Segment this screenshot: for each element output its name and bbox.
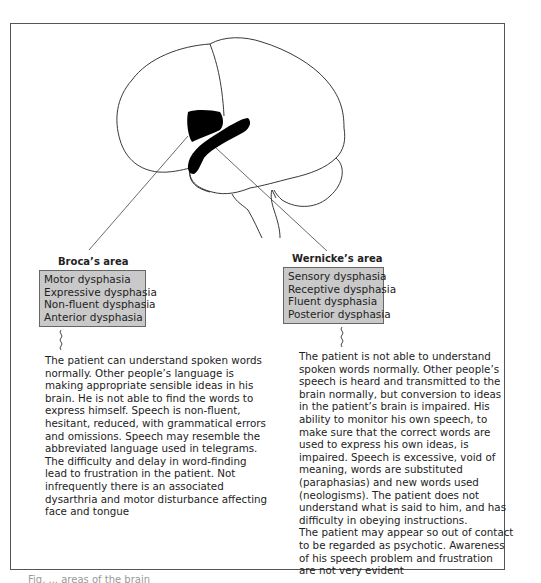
wernicke-area-title: Wernicke’s area bbox=[292, 253, 382, 264]
brainstem-left bbox=[232, 194, 262, 238]
cerebrum-outline bbox=[117, 38, 345, 194]
text-line: brain normally, but conversion to ideas bbox=[299, 388, 513, 401]
text-line: impaired. Speech is excessive, void of bbox=[299, 451, 513, 464]
text-line: The patient may appear so out of contact bbox=[299, 526, 513, 539]
text-line: of his speech problem and frustration bbox=[299, 552, 513, 565]
text-line: spoken words normally. Other people’s bbox=[299, 363, 513, 376]
text-line: difficulty in obeying instructions. bbox=[299, 514, 513, 527]
figure-caption-partial: Fig. ... areas of the brain bbox=[28, 574, 150, 583]
broca-synonyms-box: Motor dysphasia Expressive dysphasia Non… bbox=[39, 270, 146, 327]
wernicke-wavy-connector bbox=[341, 327, 343, 347]
broca-synonym: Non-fluent dysphasia bbox=[44, 298, 141, 311]
text-line: express himself. Speech is non-fluent, bbox=[45, 404, 267, 417]
brainstem-notch bbox=[272, 190, 276, 198]
text-line: The patient is not able to understand bbox=[299, 350, 513, 363]
text-line: understand what is said to him, and has bbox=[299, 501, 513, 514]
text-line: infrequently there is an associated bbox=[45, 480, 267, 493]
text-line: The patient can understand spoken words bbox=[45, 354, 267, 367]
broca-wavy-connector bbox=[60, 330, 62, 350]
text-line: ability to monitor his own speech, to bbox=[299, 413, 513, 426]
wernicke-synonyms-box: Sensory dysphasia Receptive dysphasia Fl… bbox=[283, 267, 384, 324]
central-sulcus bbox=[210, 44, 224, 116]
wernicke-synonym: Receptive dysphasia bbox=[288, 283, 379, 296]
wernicke-leader-line bbox=[216, 148, 327, 251]
text-line: are not very evident bbox=[299, 564, 513, 577]
wernicke-description: The patient is not able to understand sp… bbox=[299, 350, 513, 577]
text-line: normally. Other people’s language is bbox=[45, 367, 267, 380]
text-line: (paraphasias) and new words used bbox=[299, 476, 513, 489]
wernicke-synonym: Sensory dysphasia bbox=[288, 270, 379, 283]
text-line: face and tongue bbox=[45, 505, 267, 518]
text-line: meaning, words are substituted bbox=[299, 463, 513, 476]
cerebellum-outline bbox=[274, 158, 342, 206]
broca-synonym: Anterior dysphasia bbox=[44, 311, 141, 324]
broca-synonym: Expressive dysphasia bbox=[44, 286, 141, 299]
text-line: brain. He is not able to find the words … bbox=[45, 392, 267, 405]
text-line: making appropriate sensible ideas in his bbox=[45, 379, 267, 392]
text-line: speech is heard and transmitted to the bbox=[299, 375, 513, 388]
broca-leader-line bbox=[89, 136, 188, 250]
text-line: hesitant, reduced, with grammatical erro… bbox=[45, 417, 267, 430]
text-line: used to express his own ideas, is bbox=[299, 438, 513, 451]
broca-area-title: Broca’s area bbox=[58, 256, 129, 267]
text-line: in the patient’s brain is impaired. His bbox=[299, 400, 513, 413]
text-line: make sure that the correct words are bbox=[299, 426, 513, 439]
text-line: lead to frustration in the patient. Not bbox=[45, 467, 267, 480]
text-line: to be regarded as psychotic. Awareness bbox=[299, 539, 513, 552]
wernicke-synonym: Fluent dysphasia bbox=[288, 295, 379, 308]
text-line: (neologisms). The patient does not bbox=[299, 489, 513, 502]
text-line: and omissions. Speech may resemble the bbox=[45, 430, 267, 443]
broca-synonym: Motor dysphasia bbox=[44, 273, 141, 286]
wernicke-synonym: Posterior dysphasia bbox=[288, 308, 379, 321]
text-line: The difficulty and delay in word-finding bbox=[45, 455, 267, 468]
text-line: dysarthria and motor disturbance affecti… bbox=[45, 493, 267, 506]
broca-description: The patient can understand spoken words … bbox=[45, 354, 267, 518]
text-line: abbreviated language used in telegrams. bbox=[45, 442, 267, 455]
